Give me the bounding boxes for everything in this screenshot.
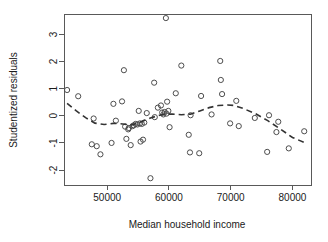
y-tick-label: 2 [48, 58, 59, 64]
y-axis-title: Studentized residuals [8, 52, 19, 148]
x-tick-label: 70000 [217, 192, 245, 203]
x-tick-label: 80000 [279, 192, 307, 203]
y-tick-label: 1 [48, 85, 59, 91]
y-tick-label: -1 [48, 138, 59, 147]
y-tick-label: 3 [48, 31, 59, 37]
y-tick-label: 0 [48, 113, 59, 119]
y-tick-label: -2 [48, 165, 59, 174]
x-tick-label: 60000 [155, 192, 183, 203]
x-axis-title: Median household income [129, 219, 246, 230]
chart-canvas: 50000600007000080000 -2-10123 Median hou… [0, 0, 328, 242]
x-tick-label: 50000 [93, 192, 121, 203]
scatter-plot-figure: 50000600007000080000 -2-10123 Median hou… [0, 0, 328, 242]
